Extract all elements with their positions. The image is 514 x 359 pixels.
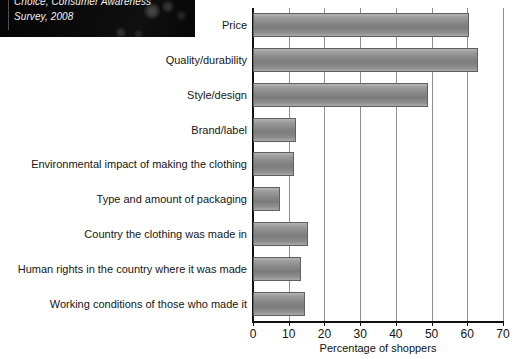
chart-row: Type and amount of packaging: [0, 182, 507, 217]
bar: [253, 83, 428, 107]
x-tick-mark: [360, 321, 361, 326]
category-label: Country the clothing was made in: [84, 228, 247, 240]
bar: [253, 48, 478, 72]
x-tick-label: 20: [309, 327, 339, 341]
category-label: Environmental impact of making the cloth…: [31, 158, 247, 170]
x-tick-mark: [503, 321, 504, 326]
x-tick-label: 50: [417, 327, 447, 341]
category-label: Style/design: [187, 89, 247, 101]
x-tick-label: 10: [274, 327, 304, 341]
category-label: Working conditions of those who made it: [50, 298, 247, 310]
chart-row: Working conditions of those who made it: [0, 286, 507, 321]
x-tick-mark: [396, 321, 397, 326]
chart-row: Environmental impact of making the cloth…: [0, 147, 507, 182]
x-tick-mark: [432, 321, 433, 326]
x-axis-title: Percentage of shoppers: [253, 342, 503, 354]
bar: [253, 13, 469, 37]
category-label: Brand/label: [191, 124, 247, 136]
bar: [253, 222, 308, 246]
chart-row: Style/design: [0, 78, 507, 113]
x-tick-label: 60: [452, 327, 482, 341]
category-label: Human rights in the country where it was…: [18, 263, 247, 275]
chart-row: Price: [0, 8, 507, 43]
x-tick-label: 0: [238, 327, 268, 341]
chart-row: Country the clothing was made in: [0, 217, 507, 252]
x-tick-label: 30: [345, 327, 375, 341]
category-label: Quality/durability: [166, 54, 247, 66]
chart-row: Brand/label: [0, 112, 507, 147]
bar: [253, 187, 280, 211]
bar: [253, 152, 294, 176]
bar: [253, 118, 296, 142]
chart-row: Quality/durability: [0, 43, 507, 78]
x-tick-label: 70: [488, 327, 514, 341]
x-tick-mark: [324, 321, 325, 326]
x-tick-label: 40: [381, 327, 411, 341]
x-tick-mark: [253, 321, 254, 326]
chart-row: Human rights in the country where it was…: [0, 251, 507, 286]
x-tick-mark: [289, 321, 290, 326]
bar: [253, 292, 305, 316]
category-label: Type and amount of packaging: [97, 193, 247, 205]
x-tick-mark: [467, 321, 468, 326]
bar: [253, 257, 301, 281]
category-label: Price: [222, 19, 247, 31]
